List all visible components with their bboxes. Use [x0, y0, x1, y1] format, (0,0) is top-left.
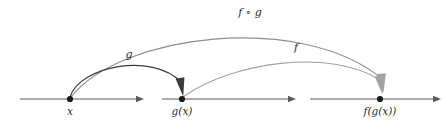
curve-label-g: g	[125, 48, 132, 61]
axis-intermediate-arrowhead-icon	[288, 96, 296, 103]
point-dot-gx	[179, 96, 185, 102]
diagram-canvas: x g(x) f(g(x)) g f f ∘ g	[0, 0, 444, 123]
curve-label-group: g f f ∘ g	[125, 6, 299, 61]
curve-label-f-compose-g: f ∘ g	[237, 6, 262, 19]
arc-f-compose-g-path	[71, 38, 381, 97]
point-label-group: x g(x) f(g(x))	[67, 105, 396, 117]
point-label-fgx: f(g(x))	[363, 105, 397, 117]
arc-f-path	[183, 62, 380, 97]
axis-domain-arrowhead-icon	[136, 96, 144, 103]
arc-f	[183, 62, 385, 97]
axis-codomain	[310, 96, 441, 103]
axis-codomain-arrowhead-icon	[433, 96, 441, 103]
point-dot-x	[67, 96, 73, 102]
arc-f-arrowhead-icon	[375, 75, 385, 95]
arc-f-compose-g	[71, 38, 386, 97]
function-composition-diagram: x g(x) f(g(x)) g f f ∘ g	[0, 0, 444, 123]
point-dot-fgx	[377, 96, 383, 102]
axis-domain	[20, 96, 144, 103]
point-label-gx: g(x)	[172, 105, 193, 117]
arc-g-arrowhead-icon	[176, 77, 185, 96]
point-label-x: x	[67, 105, 73, 117]
